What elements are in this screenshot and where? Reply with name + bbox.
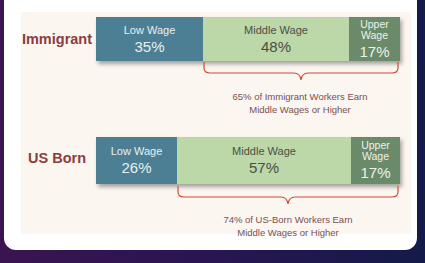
- annotation-us-born: 74% of US-Born Workers Earn Middle Wages…: [198, 213, 378, 239]
- segment-label: Low Wage: [111, 145, 163, 157]
- annotation-line: 65% of Immigrant Workers Earn: [210, 90, 390, 103]
- segment-label: Low Wage: [124, 24, 176, 36]
- brace-icon: [176, 186, 400, 208]
- brace-icon: [202, 62, 400, 84]
- annotation-line: Middle Wages or Higher: [210, 103, 390, 116]
- segment-label: Wage: [362, 151, 389, 162]
- row-label-immigrant: Immigrant: [20, 31, 94, 47]
- annotation-immigrant: 65% of Immigrant Workers Earn Middle Wag…: [210, 90, 390, 116]
- segment-upper-wage: Upper Wage 17%: [351, 137, 400, 184]
- stacked-bar-us-born: Low Wage 26% Middle Wage 57% Upper Wage …: [96, 137, 400, 184]
- segment-label: Wage: [361, 30, 388, 41]
- segment-low-wage: Low Wage 26%: [96, 137, 177, 184]
- segment-middle-wage: Middle Wage 48%: [203, 17, 349, 61]
- segment-middle-wage: Middle Wage 57%: [177, 137, 351, 184]
- segment-value: 17%: [359, 43, 389, 60]
- segment-upper-wage: Upper Wage 17%: [349, 17, 400, 61]
- annotation-line: 74% of US-Born Workers Earn: [198, 213, 378, 226]
- segment-label: Middle Wage: [244, 24, 308, 36]
- segment-low-wage: Low Wage 35%: [96, 17, 203, 61]
- segment-label: Upper: [360, 19, 389, 30]
- segment-value: 48%: [261, 38, 291, 55]
- segment-label: Middle Wage: [232, 145, 296, 157]
- segment-value: 35%: [134, 38, 164, 55]
- stacked-bar-immigrant: Low Wage 35% Middle Wage 48% Upper Wage …: [96, 17, 400, 61]
- segment-value: 26%: [121, 159, 151, 176]
- segment-value: 57%: [249, 159, 279, 176]
- annotation-line: Middle Wages or Higher: [198, 226, 378, 239]
- row-label-us-born: US Born: [20, 150, 94, 166]
- segment-value: 17%: [360, 164, 390, 181]
